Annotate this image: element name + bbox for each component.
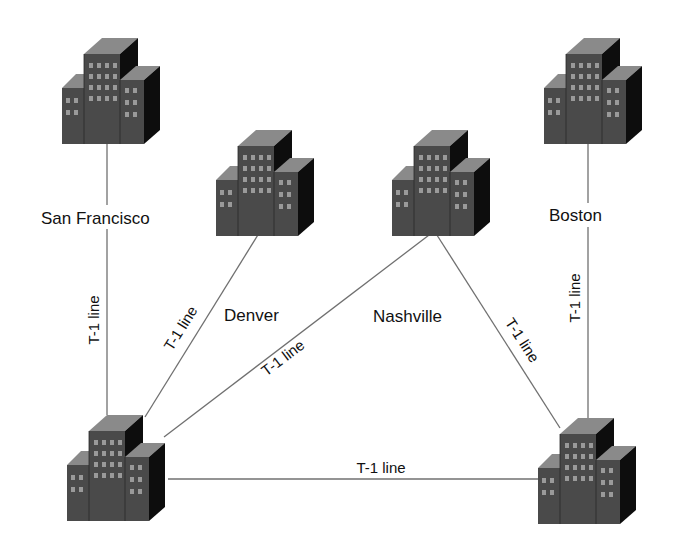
building-san-francisco: [62, 38, 160, 144]
link-label-nashville-east: T-1 line: [502, 315, 543, 366]
links: [107, 137, 588, 479]
link-nashville-hubeast: [435, 232, 560, 428]
link-label-nashville-west: T-1 line: [258, 336, 308, 379]
building-hub-east: [538, 418, 636, 524]
building-hub-west: [67, 415, 165, 521]
label-denver: Denver: [224, 306, 279, 325]
link-label-denver: T-1 line: [160, 303, 200, 354]
link-nashville-hubwest: [164, 232, 433, 437]
label-boston: Boston: [549, 206, 602, 225]
label-nashville: Nashville: [373, 307, 442, 326]
link-label-sf: T-1 line: [85, 295, 102, 344]
label-san-francisco: San Francisco: [41, 209, 150, 228]
link-label-hub: T-1 line: [356, 459, 405, 476]
building-boston: [544, 38, 642, 144]
network-diagram: San Francisco Denver Nashville Boston T-…: [0, 0, 681, 544]
building-nashville: [392, 130, 490, 236]
link-label-boston: T-1 line: [566, 273, 583, 322]
building-denver: [216, 130, 314, 236]
